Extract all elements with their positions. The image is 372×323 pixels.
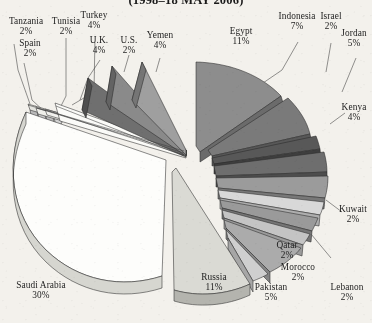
- chart-page: (1998–18 MAY 2006) .w{stroke:#2b2b2b;str…: [0, 0, 372, 323]
- label-russia: Russia 11%: [190, 272, 238, 293]
- label-saudi-arabia: Saudi Arabia 30%: [2, 280, 80, 301]
- label-kuwait: Kuwait 2%: [332, 204, 372, 225]
- label-jordan: Jordan 5%: [334, 28, 372, 49]
- label-spain: Spain 2%: [8, 38, 52, 59]
- label-turkey: Turkey 4%: [72, 10, 116, 31]
- label-pakistan: Pakistan 5%: [248, 282, 294, 303]
- label-yemen: Yemen 4%: [139, 30, 181, 51]
- label-qatar: Qatar 2%: [268, 240, 306, 261]
- label-morocco: Morocco 2%: [274, 262, 322, 283]
- label-egypt: Egypt 11%: [218, 26, 264, 47]
- label-kenya: Kenya 4%: [334, 102, 372, 123]
- label-lebanon: Lebanon 2%: [322, 282, 372, 303]
